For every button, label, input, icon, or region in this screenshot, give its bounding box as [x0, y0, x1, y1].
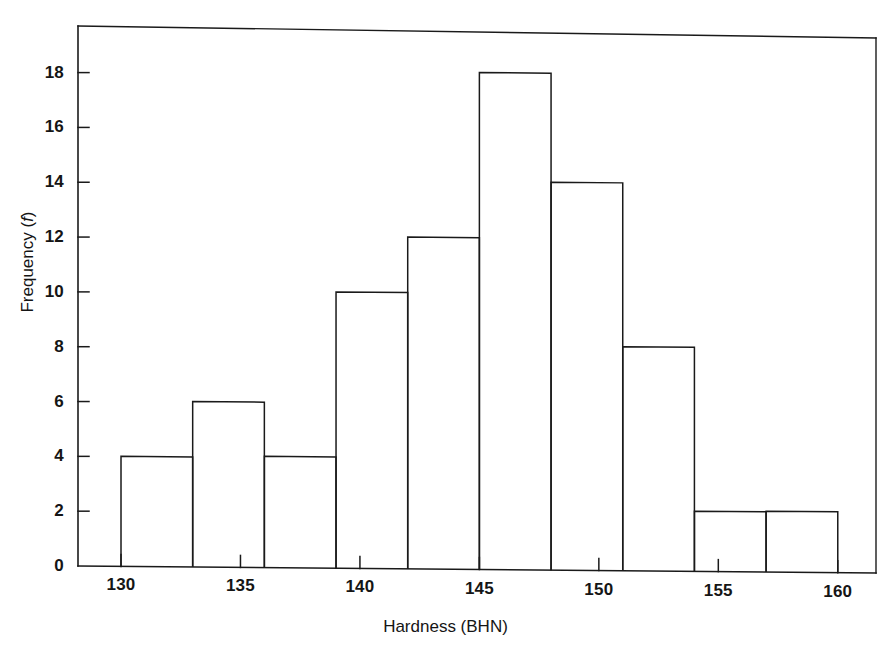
y-tick-label-2: 2 [30, 502, 64, 519]
x-tick-label-135: 135 [217, 577, 263, 594]
histogram-bar [694, 511, 766, 572]
y-axis-ticks [78, 73, 89, 512]
x-axis-title: Hardness (BHN) [0, 617, 891, 637]
histogram-bar [551, 182, 623, 571]
x-axis-line [78, 566, 876, 573]
x-tick-label-150: 150 [576, 581, 622, 598]
y-tick-label-4: 4 [30, 447, 64, 464]
histogram-bar [479, 73, 551, 571]
frame-top-line [78, 26, 876, 38]
x-tick-label-140: 140 [337, 578, 383, 595]
histogram-bar [336, 292, 408, 569]
histogram-bar [766, 511, 838, 572]
x-tick-label-160: 160 [815, 583, 861, 600]
axis-frame [78, 26, 876, 573]
x-tick-label-130: 130 [98, 576, 144, 593]
histogram-figure: 024681012141618 130135140145150155160 Fr… [0, 0, 891, 659]
plot-area: 024681012141618 130135140145150155160 Fr… [0, 0, 891, 659]
histogram-bar [193, 402, 265, 568]
y-axis-title-wrapper: Frequency (f) [18, 132, 42, 392]
y-tick-label-6: 6 [30, 393, 64, 410]
x-tick-label-155: 155 [695, 582, 741, 599]
histogram-bar [623, 347, 695, 572]
chart-canvas [0, 0, 891, 659]
histogram-bar [408, 237, 480, 569]
x-tick-label-145: 145 [456, 580, 502, 597]
y-tick-label-0: 0 [30, 557, 64, 574]
y-tick-label-18: 18 [30, 64, 64, 81]
histogram-bar [121, 456, 193, 567]
histogram-bars [121, 73, 838, 573]
y-axis-title: Frequency (f) [18, 132, 38, 392]
histogram-bar [264, 456, 336, 568]
